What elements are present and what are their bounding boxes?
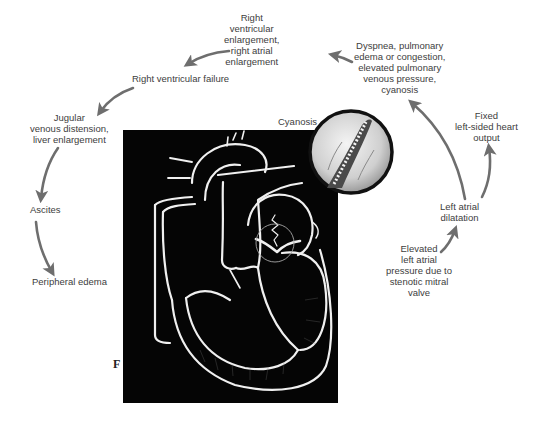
label-line: pressure due to: [386, 265, 452, 276]
label-line: Peripheral edema: [32, 276, 107, 287]
arrow-rv-enlargement-to-rv-failure: [188, 51, 229, 64]
label-line: cyanosis: [354, 84, 445, 95]
label-line: Cyanosis: [278, 116, 317, 127]
label-line: Jugular: [30, 112, 109, 123]
label-line: valve: [386, 287, 452, 298]
arrow-jugular-to-ascites: [41, 148, 58, 198]
figure-panel-letter: F: [113, 357, 120, 372]
label-line: enlargement: [224, 56, 279, 67]
arrow-rv-failure-to-jugular: [100, 88, 133, 112]
label-line: Fixed: [455, 110, 518, 121]
arrow-ascites-to-edema: [36, 222, 52, 272]
label-line: edema or congestion,: [354, 51, 445, 62]
label-line: Left atrial: [440, 201, 479, 212]
label-line: left atrial: [386, 254, 452, 265]
label-line: dilatation: [440, 212, 479, 223]
heart-illustration-icon: [123, 130, 338, 403]
label-right-ventricular-failure: Right ventricular failure: [132, 73, 229, 84]
label-line: Ascites: [30, 204, 61, 215]
label-line: venous distension,: [30, 123, 109, 134]
label-line: venous pressure,: [354, 73, 445, 84]
arrow-la-dilatation-to-fixed-output: [482, 148, 490, 197]
label-line: enlargement,: [224, 34, 279, 45]
label-line: left-sided heart: [455, 121, 518, 132]
label-line: stenotic mitral: [386, 276, 452, 287]
arrow-dyspnea-to-rv-enlargement: [333, 55, 352, 62]
label-elevated-left-atrial-pressure: Elevated left atrial pressure due to ste…: [386, 243, 452, 298]
label-ascites: Ascites: [30, 204, 61, 215]
label-peripheral-edema: Peripheral edema: [32, 276, 107, 287]
label-line: liver enlargement: [30, 134, 109, 145]
label-line: ventricular: [224, 23, 279, 34]
label-line: Elevated: [386, 243, 452, 254]
label-left-atrial-dilatation: Left atrial dilatation: [440, 201, 479, 223]
label-line: elevated pulmonary: [354, 62, 445, 73]
label-jugular-venous-distension: Jugular venous distension, liver enlarge…: [30, 112, 109, 145]
label-line: right atrial: [224, 45, 279, 56]
label-line: Right ventricular failure: [132, 73, 229, 84]
label-dyspnea: Dyspnea, pulmonary edema or congestion, …: [354, 40, 445, 95]
label-line: output: [455, 132, 518, 143]
label-line: Dyspnea, pulmonary: [354, 40, 445, 51]
stenotic-mitral-valve-icon: [310, 111, 392, 193]
label-line: Right: [224, 12, 279, 23]
label-right-ventricular-enlargement: Right ventricular enlargement, right atr…: [224, 12, 279, 67]
label-fixed-left-sided-output: Fixed left-sided heart output: [455, 110, 518, 143]
label-cyanosis: Cyanosis: [278, 116, 317, 127]
